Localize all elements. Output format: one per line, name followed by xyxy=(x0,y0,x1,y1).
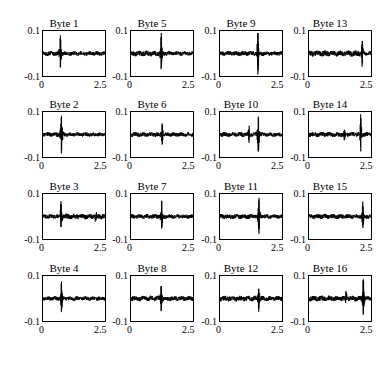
y-axis-tick-high: 0.1 xyxy=(294,189,307,199)
trace-line xyxy=(219,33,283,75)
y-axis-tick-low: -0.1 xyxy=(201,317,217,327)
trace-line xyxy=(308,41,372,67)
panel-byte-16: Byte 160.1-0.102.5 xyxy=(286,262,374,344)
x-axis-tick-high: 2.5 xyxy=(360,80,373,90)
plot-axes: 0.1-0.102.5 xyxy=(308,30,372,77)
panel-byte-11: Byte 110.1-0.102.5 xyxy=(197,180,285,262)
y-axis-tick-low: -0.1 xyxy=(24,317,40,327)
x-axis-tick-high: 2.5 xyxy=(271,243,284,253)
plot-axes: 0.1-0.102.5 xyxy=(130,111,194,158)
plot-axes: 0.1-0.102.5 xyxy=(130,275,194,322)
x-axis-tick-high: 2.5 xyxy=(360,161,373,171)
panel-byte-2: Byte 20.1-0.102.5 xyxy=(20,98,108,180)
trace-line xyxy=(42,281,106,312)
x-axis-tick-high: 2.5 xyxy=(94,243,107,253)
plot-axes: 0.1-0.102.5 xyxy=(130,30,194,77)
plot-axes: 0.1-0.102.5 xyxy=(42,30,106,77)
x-axis-tick-high: 2.5 xyxy=(360,243,373,253)
x-axis-tick-low: 0 xyxy=(305,161,310,171)
trace-plot xyxy=(219,275,283,322)
x-axis-tick-high: 2.5 xyxy=(94,325,107,335)
y-axis-tick-low: -0.1 xyxy=(112,317,128,327)
trace-plot xyxy=(308,193,372,240)
trace-line xyxy=(219,289,283,312)
y-axis-tick-low: -0.1 xyxy=(290,317,306,327)
trace-line xyxy=(130,201,194,229)
x-axis-tick-low: 0 xyxy=(39,325,44,335)
plot-axes: 0.1-0.102.5 xyxy=(308,193,372,240)
x-axis-tick-high: 2.5 xyxy=(94,161,107,171)
trace-plot xyxy=(42,193,106,240)
x-axis-tick-low: 0 xyxy=(305,80,310,90)
y-axis-tick-high: 0.1 xyxy=(28,271,41,281)
panel-byte-5: Byte 50.1-0.102.5 xyxy=(108,17,196,99)
plot-axes: 0.1-0.102.5 xyxy=(219,30,283,77)
x-axis-tick-high: 2.5 xyxy=(182,243,195,253)
y-axis-tick-high: 0.1 xyxy=(28,107,41,117)
trace-plot xyxy=(42,30,106,77)
trace-plot xyxy=(130,111,194,158)
trace-line xyxy=(42,201,106,227)
x-axis-tick-low: 0 xyxy=(39,80,44,90)
y-axis-tick-low: -0.1 xyxy=(290,235,306,245)
x-axis-tick-high: 2.5 xyxy=(182,325,195,335)
y-axis-tick-high: 0.1 xyxy=(294,26,307,36)
panel-byte-13: Byte 130.1-0.102.5 xyxy=(286,17,374,99)
trace-line xyxy=(42,116,106,154)
x-axis-tick-high: 2.5 xyxy=(182,161,195,171)
panel-byte-10: Byte 100.1-0.102.5 xyxy=(197,98,285,180)
trace-plot xyxy=(219,30,283,77)
trace-plot xyxy=(42,111,106,158)
trace-line xyxy=(130,33,194,69)
x-axis-tick-low: 0 xyxy=(127,161,132,171)
x-axis-tick-low: 0 xyxy=(216,325,221,335)
x-axis-tick-high: 2.5 xyxy=(271,80,284,90)
y-axis-tick-high: 0.1 xyxy=(205,26,218,36)
y-axis-tick-low: -0.1 xyxy=(290,153,306,163)
y-axis-tick-high: 0.1 xyxy=(205,107,218,117)
panel-byte-3: Byte 30.1-0.102.5 xyxy=(20,180,108,262)
plot-axes: 0.1-0.102.5 xyxy=(308,111,372,158)
x-axis-tick-low: 0 xyxy=(305,325,310,335)
x-axis-tick-low: 0 xyxy=(216,80,221,90)
plot-axes: 0.1-0.102.5 xyxy=(42,275,106,322)
y-axis-tick-high: 0.1 xyxy=(28,189,41,199)
trace-plot xyxy=(308,30,372,77)
y-axis-tick-high: 0.1 xyxy=(28,26,41,36)
trace-line xyxy=(42,35,106,67)
trace-plot xyxy=(130,193,194,240)
trace-plot xyxy=(42,275,106,322)
plot-axes: 0.1-0.102.5 xyxy=(219,275,283,322)
x-axis-tick-low: 0 xyxy=(305,243,310,253)
trace-line xyxy=(308,201,372,228)
x-axis-tick-low: 0 xyxy=(39,243,44,253)
plot-axes: 0.1-0.102.5 xyxy=(42,111,106,158)
trace-line xyxy=(130,124,194,145)
trace-line xyxy=(308,279,372,314)
panel-byte-8: Byte 80.1-0.102.5 xyxy=(108,262,196,344)
x-axis-tick-low: 0 xyxy=(127,243,132,253)
plot-axes: 0.1-0.102.5 xyxy=(219,111,283,158)
y-axis-tick-high: 0.1 xyxy=(116,107,129,117)
y-axis-tick-low: -0.1 xyxy=(112,235,128,245)
plot-axes: 0.1-0.102.5 xyxy=(219,193,283,240)
trace-plot xyxy=(130,30,194,77)
y-axis-tick-high: 0.1 xyxy=(116,189,129,199)
trace-line xyxy=(219,198,283,234)
y-axis-tick-high: 0.1 xyxy=(116,26,129,36)
x-axis-tick-high: 2.5 xyxy=(182,80,195,90)
y-axis-tick-low: -0.1 xyxy=(290,72,306,82)
y-axis-tick-high: 0.1 xyxy=(294,107,307,117)
panel-byte-15: Byte 150.1-0.102.5 xyxy=(286,180,374,262)
plot-axes: 0.1-0.102.5 xyxy=(130,193,194,240)
panel-byte-1: Byte 10.1-0.102.5 xyxy=(20,17,108,99)
y-axis-tick-low: -0.1 xyxy=(24,153,40,163)
y-axis-tick-low: -0.1 xyxy=(24,235,40,245)
panel-byte-12: Byte 120.1-0.102.5 xyxy=(197,262,285,344)
y-axis-tick-low: -0.1 xyxy=(201,153,217,163)
panel-byte-9: Byte 90.1-0.102.5 xyxy=(197,17,285,99)
x-axis-tick-high: 2.5 xyxy=(94,80,107,90)
y-axis-tick-low: -0.1 xyxy=(24,72,40,82)
x-axis-tick-high: 2.5 xyxy=(271,325,284,335)
plot-axes: 0.1-0.102.5 xyxy=(42,193,106,240)
